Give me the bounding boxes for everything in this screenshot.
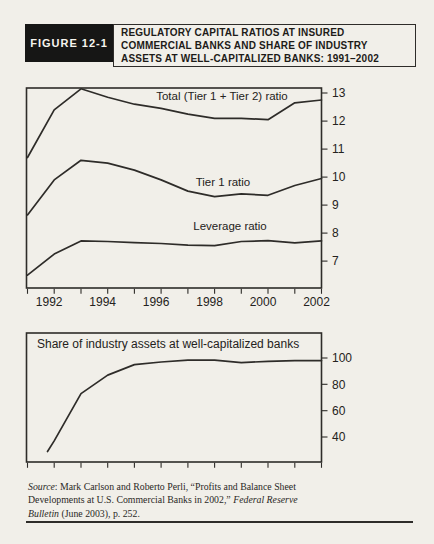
data-line-tier1-ratio — [28, 160, 322, 215]
y-tick-label: 80 — [332, 378, 346, 392]
y-tick-label: 40 — [332, 430, 346, 444]
plot-frame — [27, 333, 322, 462]
series-label-tier1-ratio: Tier 1 ratio — [185, 176, 261, 188]
x-tick-label: 1992 — [36, 295, 63, 309]
y-tick-label: 100 — [332, 351, 352, 365]
source-note-line: Source: Mark Carlson and Roberto Perli, … — [28, 480, 400, 493]
source-note-line: Developments at U.S. Commercial Banks in… — [28, 493, 400, 506]
x-tick-label: 1996 — [143, 295, 170, 309]
source-note: Source: Mark Carlson and Roberto Perli, … — [28, 480, 400, 520]
y-tick-label: 10 — [332, 170, 346, 184]
figure-page: { "header": { "figure_label": "FIGURE 12… — [0, 0, 434, 544]
y-tick-label: 13 — [332, 86, 346, 100]
y-tick-label: 12 — [332, 114, 346, 128]
bottom-chart-title: Share of industry assets at well-capital… — [37, 337, 299, 351]
source-note-line: Bulletin (June 2003), p. 252. — [28, 507, 400, 520]
data-line-share-well-capitalized — [48, 360, 322, 451]
y-tick-label: 9 — [332, 198, 339, 212]
y-tick-label: 11 — [332, 142, 345, 156]
x-tick-label: 1994 — [89, 295, 116, 309]
y-tick-label: 8 — [332, 226, 339, 240]
plot-frame — [27, 88, 322, 288]
charts-canvas: 7891011121319921994199619982000200240608… — [0, 0, 434, 544]
x-tick-label: 2000 — [250, 295, 277, 309]
y-tick-label: 60 — [332, 404, 346, 418]
x-tick-label: 1998 — [196, 295, 223, 309]
bottom-rule — [26, 521, 413, 523]
x-tick-label: 2002 — [303, 295, 330, 309]
series-label-total-ratio: Total (Tier 1 + Tier 2) ratio — [142, 90, 302, 102]
data-line-leverage-ratio — [28, 241, 322, 275]
y-tick-label: 7 — [332, 254, 339, 268]
series-label-leverage-ratio: Leverage ratio — [191, 220, 269, 232]
